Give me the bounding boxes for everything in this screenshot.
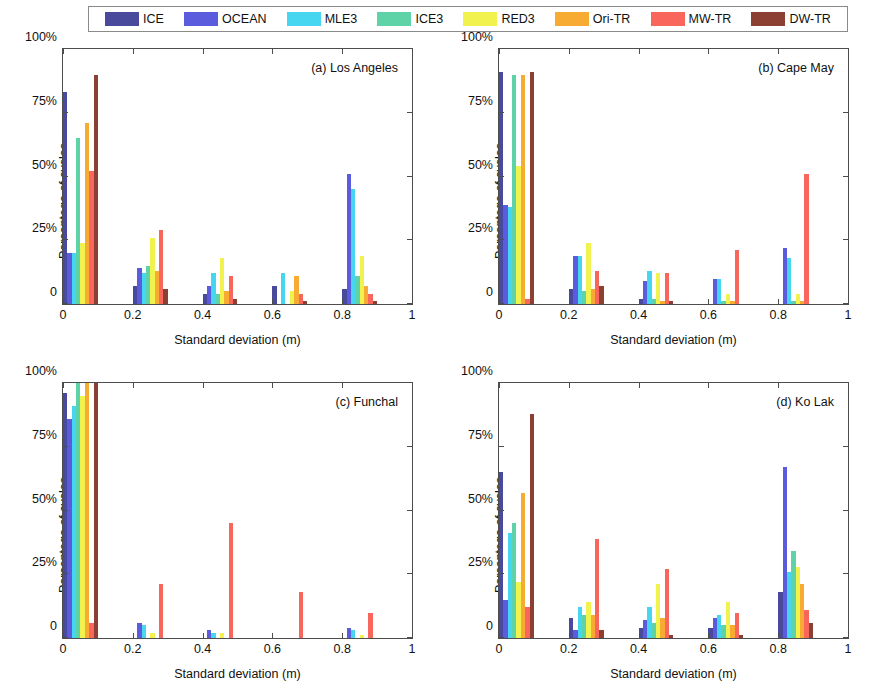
bar	[85, 383, 89, 638]
bar	[735, 613, 739, 639]
x-tick-mark	[499, 383, 500, 388]
x-tick-mark	[272, 383, 273, 388]
bar	[94, 383, 98, 638]
x-tick-mark	[133, 383, 134, 388]
y-tick-label: 50%	[32, 492, 57, 505]
x-tick-mark	[848, 633, 849, 638]
legend-swatch-icon	[377, 12, 411, 26]
x-tick-mark	[342, 49, 343, 54]
x-tick-mark	[639, 633, 640, 638]
y-tick-mark	[63, 239, 68, 240]
x-tick-mark	[848, 49, 849, 54]
y-tick-mark	[843, 510, 848, 511]
bars-layer	[63, 49, 412, 304]
bar	[735, 250, 739, 304]
bar	[787, 258, 791, 304]
x-tick-mark	[342, 383, 343, 388]
chart-legend: ICEOCEANMLE3ICE3RED3Ori-TRMW-TRDW-TR	[88, 6, 848, 32]
panel-grid: Percentage of cycles (a) Los Angeles 025…	[0, 34, 871, 700]
bar	[220, 633, 224, 638]
x-tick-mark	[133, 299, 134, 304]
panel-caption: (d) Ko Lak	[776, 395, 834, 409]
chart-panel-d: Percentage of cycles (d) Ko Lak 025%50%7…	[436, 368, 871, 700]
chart-panel-a: Percentage of cycles (a) Los Angeles 025…	[0, 34, 435, 367]
legend-swatch-icon	[651, 12, 685, 26]
x-tick-label: 0.6	[700, 643, 717, 656]
x-tick-mark	[342, 633, 343, 638]
bar	[159, 584, 163, 638]
bar	[360, 635, 364, 638]
y-tick-label: 75%	[468, 95, 493, 108]
bar	[665, 273, 669, 304]
x-tick-mark	[778, 633, 779, 638]
x-tick-label: 1	[409, 643, 416, 656]
x-tick-mark	[708, 383, 709, 388]
x-tick-mark	[203, 383, 204, 388]
y-tick-label: 25%	[468, 222, 493, 235]
legend-entry-mle3: MLE3	[287, 12, 358, 26]
x-tick-label: 0	[496, 309, 503, 322]
bar	[368, 613, 372, 639]
x-tick-mark	[569, 633, 570, 638]
y-tick-label: 75%	[32, 429, 57, 442]
plot-area-c: (c) Funchal 025%50%75%100%00.20.40.60.81	[62, 382, 413, 639]
y-tick-label: 0	[50, 620, 57, 633]
plot-area-d: (d) Ko Lak 025%50%75%100%00.20.40.60.81	[498, 382, 849, 639]
bar	[739, 635, 743, 638]
y-tick-mark	[63, 176, 68, 177]
legend-label: RED3	[501, 13, 534, 26]
bars-layer	[499, 383, 848, 638]
bar	[373, 301, 377, 304]
legend-entry-ice: ICE	[105, 12, 164, 26]
y-tick-mark	[407, 446, 412, 447]
y-tick-label: 0	[486, 286, 493, 299]
x-tick-mark	[708, 49, 709, 54]
x-tick-mark	[848, 299, 849, 304]
x-tick-mark	[639, 383, 640, 388]
y-tick-label: 75%	[468, 429, 493, 442]
x-tick-label: 0.8	[333, 643, 350, 656]
x-tick-mark	[272, 299, 273, 304]
y-tick-mark	[499, 176, 504, 177]
x-tick-mark	[569, 299, 570, 304]
x-tick-label: 0.8	[769, 309, 786, 322]
x-tick-label: 0.4	[630, 309, 647, 322]
y-tick-mark	[843, 176, 848, 177]
x-axis-label: Standard deviation (m)	[62, 667, 413, 681]
y-tick-mark	[63, 573, 68, 574]
y-tick-label: 25%	[468, 556, 493, 569]
y-tick-label: 100%	[461, 31, 493, 44]
legend-entry-ocean: OCEAN	[184, 12, 266, 26]
chart-panel-c: Percentage of cycles (c) Funchal 025%50%…	[0, 368, 435, 700]
legend-entry-ice3: ICE3	[377, 12, 443, 26]
x-tick-label: 0.2	[560, 309, 577, 322]
y-tick-mark	[843, 112, 848, 113]
bars-layer	[499, 49, 848, 304]
chart-panel-b: Percentage of cycles (b) Cape May 025%50…	[436, 34, 871, 367]
y-tick-mark	[843, 446, 848, 447]
x-tick-label: 0.2	[124, 309, 141, 322]
y-tick-mark	[407, 176, 412, 177]
x-tick-label: 0.4	[630, 643, 647, 656]
bar	[809, 623, 813, 638]
bar	[233, 299, 237, 304]
legend-label: ICE3	[415, 13, 443, 26]
y-tick-mark	[499, 510, 504, 511]
bar	[595, 539, 599, 638]
x-tick-label: 1	[845, 643, 852, 656]
y-tick-mark	[843, 239, 848, 240]
bar	[804, 174, 808, 304]
bar	[303, 301, 307, 304]
x-tick-mark	[569, 383, 570, 388]
legend-label: OCEAN	[222, 13, 266, 26]
y-tick-label: 50%	[468, 158, 493, 171]
x-tick-mark	[569, 49, 570, 54]
x-tick-label: 0.6	[700, 309, 717, 322]
bar	[599, 630, 603, 638]
x-tick-label: 0	[60, 309, 67, 322]
x-tick-label: 1	[845, 309, 852, 322]
plot-area-a: (a) Los Angeles 025%50%75%100%00.20.40.6…	[62, 48, 413, 305]
y-tick-label: 0	[486, 620, 493, 633]
x-tick-mark	[499, 633, 500, 638]
x-tick-label: 0	[60, 643, 67, 656]
